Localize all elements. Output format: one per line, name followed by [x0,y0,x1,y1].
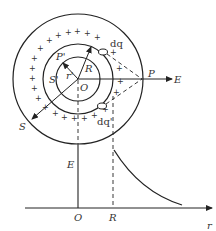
svg-text:+: + [110,48,117,57]
charge-element-dq [99,49,108,55]
svg-text:+: + [37,44,44,53]
field-curve [114,150,182,205]
svg-text:+: + [74,27,81,36]
svg-text:+: + [94,33,101,42]
svg-text:+: + [116,64,123,73]
svg-text:+: + [29,74,36,83]
svg-text:+: + [35,94,42,103]
label-P: P [147,68,155,79]
svg-text:+: + [46,36,53,45]
label-P-prime: P' [55,51,65,62]
dq-prime-to-P-dashed [106,79,142,104]
graph-label-r: r [207,220,213,231]
svg-text:+: + [61,113,68,122]
label-O: O [80,82,88,93]
label-S-prime: S' [49,74,59,85]
graph-label-O: O [74,212,82,223]
label-dq: dq [110,38,123,49]
label-E: E [173,74,182,85]
svg-text:+: + [71,114,78,123]
svg-text:+: + [81,114,88,123]
label-R: R [84,63,93,74]
graph-label-E: E [66,159,75,170]
svg-text:+: + [52,109,59,118]
graph-label-R: R [108,212,117,223]
svg-text:+: + [65,28,72,37]
label-dq-prime: dq' [97,116,113,127]
svg-text:+: + [29,64,36,73]
label-r-prime: r' [66,70,74,81]
charge-element-dq-prime [98,103,107,109]
svg-text:+: + [31,54,38,63]
svg-text:+: + [55,31,62,40]
svg-text:+: + [84,29,91,38]
label-S: S [19,121,26,132]
svg-text:+: + [31,84,38,93]
shell-field-diagram: + + + + + + + + + + + + + + + + + + + + … [0,0,216,231]
svg-text:+: + [117,77,124,86]
